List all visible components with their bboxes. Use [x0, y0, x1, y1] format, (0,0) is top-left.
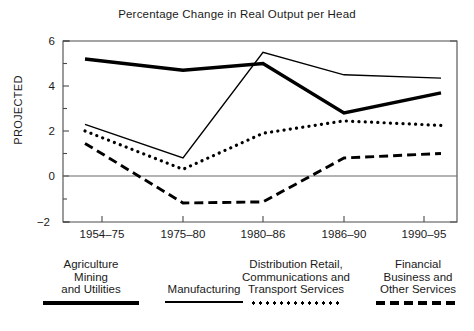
- legend-item-distribution-retail-communications-transport: Distribution Retail, Communications and …: [226, 258, 366, 305]
- legend-swatch-dotted-icon: [250, 301, 342, 305]
- legend-label-agriculture-mining-utilities: Agriculture Mining and Utilities: [28, 258, 154, 296]
- chart-legend: Agriculture Mining and Utilities Manufac…: [0, 258, 474, 331]
- legend-swatch-dashed-icon: [376, 301, 460, 305]
- x-tick-label-1986-90: 1986–90: [299, 228, 389, 241]
- legend-label-financial-business-other-services: Financial Business and Other Services: [366, 258, 470, 296]
- x-tick-label-1990-95: 1990–95: [379, 228, 469, 241]
- series-line-agriculture-mining-utilities: [85, 59, 441, 113]
- x-tick-label-1954-75: 1954–75: [57, 228, 147, 241]
- y-tick-label-6: 6: [29, 35, 55, 47]
- y-tick-label-minus-2: −2: [24, 216, 50, 228]
- chart-figure: Percentage Change in Real Output per Hea…: [0, 0, 474, 331]
- y-axis-ticks: [63, 41, 69, 222]
- y-tick-label-0: 0: [29, 170, 55, 182]
- legend-swatch-thick-solid-icon: [43, 301, 139, 305]
- legend-item-agriculture-mining-utilities: Agriculture Mining and Utilities: [28, 258, 154, 305]
- y-tick-label-4: 4: [29, 80, 55, 92]
- x-tick-label-1975-80: 1975–80: [138, 228, 228, 241]
- x-tick-label-1980-86: 1980–86: [218, 228, 308, 241]
- x-axis-ticks: [102, 216, 424, 222]
- legend-item-financial-business-other-services: Financial Business and Other Services: [366, 258, 470, 305]
- y-tick-label-2: 2: [29, 125, 55, 137]
- series-line-distribution-retail-communications-transport: [85, 121, 441, 169]
- axis-frame: [63, 41, 457, 222]
- projected-axis-label: PROJECTED: [12, 55, 24, 165]
- legend-label-distribution-retail-communications-transport: Distribution Retail, Communications and …: [226, 258, 366, 296]
